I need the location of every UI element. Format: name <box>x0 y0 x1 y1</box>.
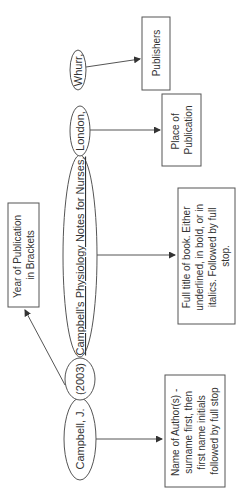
svg-text:Publishers: Publishers <box>151 30 162 77</box>
author-note-line: followed by full stop <box>209 387 220 475</box>
publisher-connector <box>86 59 140 67</box>
publisher-note-box: Publishers <box>142 17 170 90</box>
publisher-text: Whurr, <box>72 54 84 86</box>
place-text: London, <box>74 111 86 151</box>
title-note-box: Full title of book. Either underlined, i… <box>178 188 235 324</box>
year-ellipse: (2003) <box>65 358 95 400</box>
title-note-line: italics. Followed by full <box>207 208 218 307</box>
title-note-line: Full title of book. Either <box>181 206 192 308</box>
place-note-box: Place of Publication <box>162 94 201 166</box>
year-note-line: Year of Publication <box>12 215 23 298</box>
publisher-note-line: Publishers <box>151 30 162 77</box>
title-ellipse: Campbell's Physiology Notes for Nurses. <box>63 155 97 357</box>
title-note-line: underlined, in bold, or in <box>194 204 205 311</box>
author-text: Campbell, J. <box>74 408 86 469</box>
title-note-line: stop. <box>220 245 231 267</box>
author-note-line: Name of Author(s) - <box>170 389 181 476</box>
year-text: (2003) <box>74 363 86 395</box>
year-note-box: Year of Publication in Brackets <box>8 203 39 307</box>
place-note-line: Publication <box>183 106 194 155</box>
author-ellipse: Campbell, J. <box>64 398 96 480</box>
place-ellipse: London, <box>70 106 90 156</box>
publisher-ellipse: Whurr, <box>70 50 86 90</box>
place-note-line: Place of <box>170 113 181 149</box>
year-connector <box>25 310 65 385</box>
author-note-box: Name of Author(s) - surname first, then … <box>165 375 225 487</box>
citation-diagram: Campbell, J. (2003) Campbell's Physiolog… <box>0 0 248 498</box>
author-note-line: first name initials <box>196 395 207 469</box>
title-text: Campbell's Physiology Notes for Nurses. <box>74 157 86 356</box>
author-note-line: surname first, then <box>183 391 194 474</box>
year-note-line: in Brackets <box>25 230 36 279</box>
